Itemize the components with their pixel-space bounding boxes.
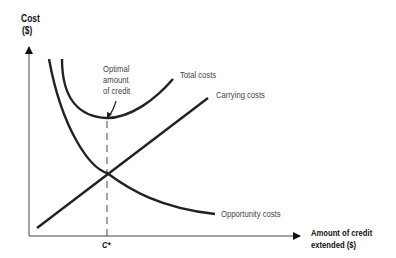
y-axis-label-line2: ($) <box>22 25 32 36</box>
x-axis-label-line2: extended ($) <box>311 240 356 250</box>
opportunity-costs-curve <box>49 59 215 214</box>
carrying-costs-label: Carrying costs <box>216 90 265 100</box>
x-axis-label-line1: Amount of credit <box>311 228 372 238</box>
optimal-label-line3: of credit <box>103 86 130 96</box>
optimal-label-line2: amount <box>103 75 129 85</box>
opportunity-costs-label: Opportunity costs <box>221 209 281 219</box>
c-star-tick-label: C* <box>102 240 111 250</box>
optimal-label-line1: Optimal <box>103 64 129 74</box>
total-costs-label: Total costs <box>180 70 216 80</box>
chart-canvas <box>0 0 396 258</box>
y-axis-label-line1: Cost <box>21 13 40 24</box>
